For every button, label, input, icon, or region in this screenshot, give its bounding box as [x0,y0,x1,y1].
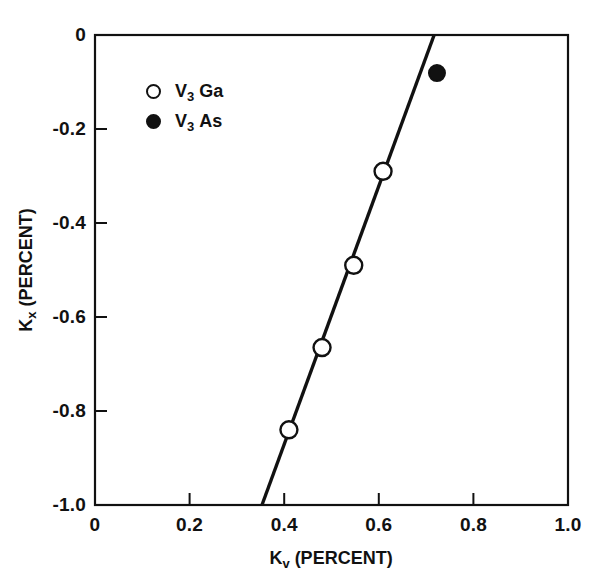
legend-item-v3ga: V3 Ga [146,76,223,106]
x-tick-label: 0.2 [176,514,203,536]
y-tick-label: -0.4 [52,212,86,234]
x-tick-label: 1.0 [554,514,581,536]
data-point-v3-ga [314,339,331,356]
y-axis-title: Kx (PERCENT) [16,208,37,331]
x-tick-label: 0.8 [460,514,487,536]
open-circle-icon [146,84,161,99]
x-tick-label: 0 [90,514,101,536]
data-point-v3-ga [345,257,362,274]
x-tick-label: 0.6 [365,514,392,536]
y-tick-label: -0.6 [52,306,86,328]
chart-legend: V3 Ga V3 As [146,76,223,136]
legend-label-v3as: V3 As [175,111,222,132]
y-tick-label: -0.2 [52,118,86,140]
y-tick-label: -1.0 [52,494,86,516]
y-tick-label: 0 [75,24,86,46]
chart-figure: 00.20.40.60.81.00-0.2-0.4-0.6-0.8-1.0 V3… [0,0,607,583]
filled-circle-icon [146,114,161,129]
legend-label-v3ga: V3 Ga [175,81,223,102]
data-point-v3-as [429,65,445,81]
x-axis-title: Kv (PERCENT) [269,548,392,569]
x-tick-label: 0.4 [271,514,298,536]
data-point-v3-ga [375,163,392,180]
y-tick-label: -0.8 [52,400,86,422]
data-point-v3-ga [280,421,297,438]
legend-item-v3as: V3 As [146,106,223,136]
plot-canvas [0,0,607,583]
